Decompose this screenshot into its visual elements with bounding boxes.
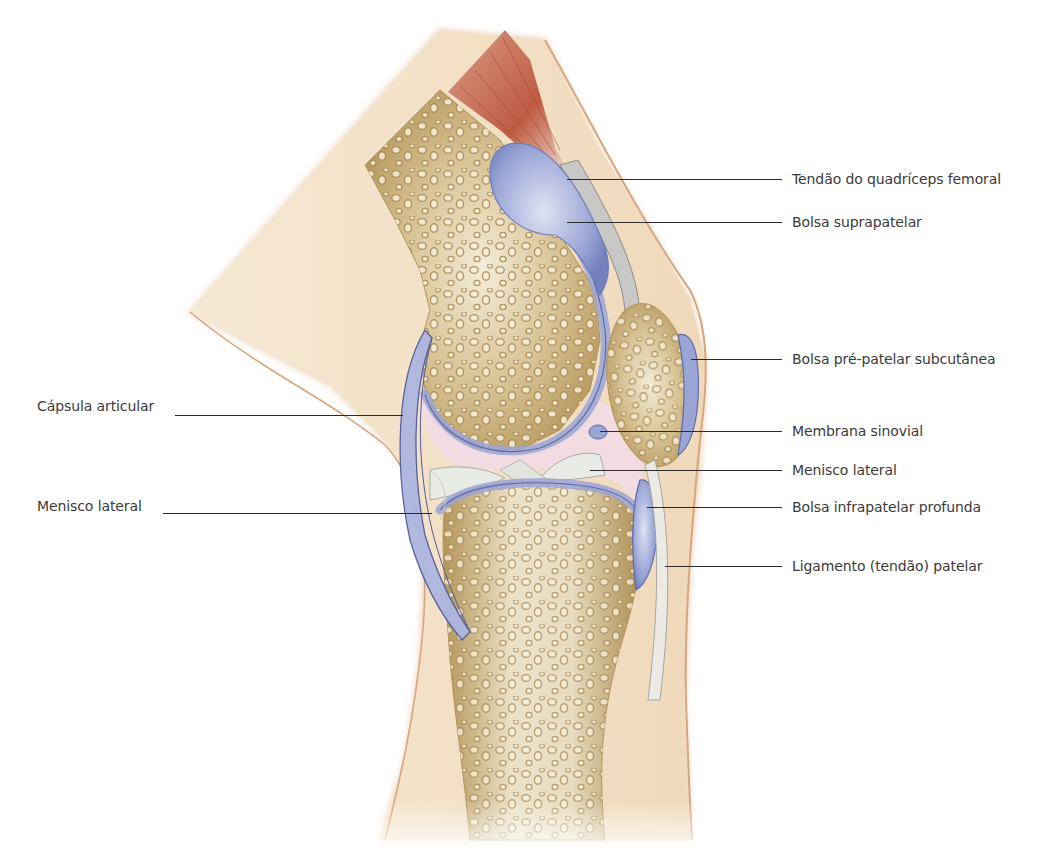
label-suprapatellar-bursa: Bolsa suprapatelar: [792, 213, 922, 231]
label-deep-infrapatellar-bursa: Bolsa infrapatelar profunda: [792, 498, 981, 516]
leader-deep-infrapatellar-bursa: [647, 507, 782, 508]
label-quadriceps-tendon: Tendão do quadríceps femoral: [792, 170, 1001, 188]
label-prepatellar-bursa: Bolsa pré-patelar subcutânea: [792, 350, 996, 368]
leader-suprapatellar-bursa: [567, 222, 782, 223]
leader-lateral-meniscus-left: [163, 513, 432, 514]
leader-prepatellar-bursa: [691, 359, 782, 360]
label-lateral-meniscus-left: Menisco lateral: [37, 497, 142, 515]
label-joint-capsule: Cápsula articular: [37, 397, 154, 415]
label-lateral-meniscus-right: Menisco lateral: [792, 461, 897, 479]
label-patellar-ligament: Ligamento (tendão) patelar: [792, 557, 982, 575]
leader-lateral-meniscus-right: [590, 470, 782, 471]
leader-joint-capsule: [175, 415, 403, 416]
leader-synovial-membrane: [600, 431, 782, 432]
leader-quadriceps-tendon: [567, 179, 782, 180]
label-synovial-membrane: Membrana sinovial: [792, 422, 923, 440]
leader-patellar-ligament: [665, 566, 782, 567]
